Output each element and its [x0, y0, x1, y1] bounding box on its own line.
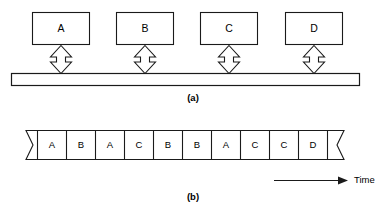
node-label-b: B — [141, 22, 148, 34]
timeline-slot-label: A — [107, 139, 114, 150]
panel-b-caption: (b) — [187, 191, 199, 202]
bus-connector-arrow-b — [135, 46, 156, 74]
bus-timeline-figure: A B C D (a) A B A C B B A C C D Time (b) — [0, 0, 386, 211]
timeline-left-break-icon — [26, 131, 37, 160]
timeline-slot-label: C — [136, 139, 143, 150]
shared-bus-bar — [12, 74, 360, 86]
timeline-slot-label: B — [78, 139, 84, 150]
timeline-slot-label: A — [49, 139, 56, 150]
timeline-right-break-icon — [332, 131, 344, 160]
text-layer: A B C D (a) A B A C B B A C C D Time (b) — [49, 22, 375, 202]
node-label-a: A — [57, 22, 64, 34]
timeline-slot-label: B — [165, 139, 171, 150]
timeline-slot-label: C — [252, 139, 259, 150]
node-label-d: D — [310, 22, 318, 34]
node-label-c: C — [225, 22, 233, 34]
bus-connector-arrow-c — [219, 46, 240, 74]
timeline-slot-label: B — [194, 139, 200, 150]
time-axis-label: Time — [354, 174, 375, 185]
time-axis-arrow — [274, 177, 348, 185]
timeline-slot-label: C — [281, 139, 288, 150]
timeline-slot-label: D — [310, 139, 317, 150]
bus-connector-arrow-a — [51, 46, 72, 74]
figure-root: A B C D (a) A B A C B B A C C D Time (b) — [0, 0, 386, 211]
timeline-slot-label: A — [223, 139, 230, 150]
panel-b — [26, 131, 348, 185]
panel-a-caption: (a) — [187, 92, 199, 103]
bus-connector-arrow-d — [304, 46, 325, 74]
